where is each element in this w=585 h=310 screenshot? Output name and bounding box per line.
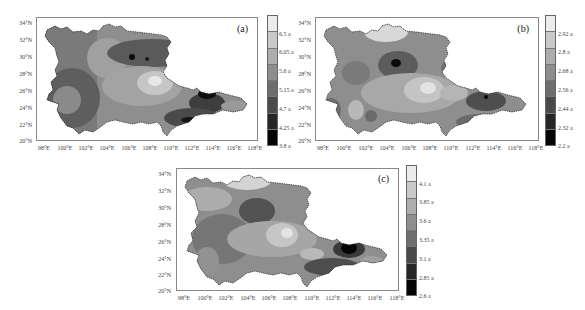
y-tick-label: 26°N	[145, 239, 171, 245]
colorbar-segment	[407, 280, 416, 295]
y-tick-label: 32°N	[6, 37, 32, 43]
colorbar-tick-label: 2.32 a	[558, 125, 573, 131]
colorbar-segment	[407, 247, 416, 263]
y-tick-label: 28°N	[285, 71, 311, 77]
y-tick-label: 32°N	[285, 37, 311, 43]
colorbar-a	[267, 15, 278, 146]
colorbar-segment	[407, 231, 416, 247]
colorbar-segment	[268, 130, 277, 145]
colorbar-segment	[546, 49, 555, 65]
colorbar-tick-label: 2.92 a	[558, 31, 573, 37]
y-tick-label: 28°N	[6, 71, 32, 77]
y-tick-label: 30°N	[6, 54, 32, 60]
colorbar-tick-label: 2.2 a	[558, 143, 570, 149]
heatmap-a	[37, 18, 259, 142]
colorbar-segment	[407, 215, 416, 231]
colorbar-segment	[268, 16, 277, 32]
colorbar-tick-label: 2.8 a	[558, 49, 570, 55]
colorbar-segment	[268, 65, 277, 81]
y-tick-label: 34°N	[285, 20, 311, 26]
y-tick-label: 30°N	[145, 205, 171, 211]
heatmap-c	[177, 169, 400, 292]
colorbar-tick-label: 2.6 a	[419, 293, 431, 299]
colorbar-tick-label: 3.85 a	[419, 199, 434, 205]
colorbar-segment	[546, 32, 555, 48]
colorbar-segment	[268, 81, 277, 97]
colorbar-tick-label: 3.6 a	[419, 218, 431, 224]
colorbar-tick-label: 2.68 a	[558, 68, 573, 74]
colorbar-tick-label: 2.56 a	[558, 87, 573, 93]
x-tick-label: 118°E	[241, 145, 269, 151]
colorbar-tick-label: 4.1 a	[419, 181, 431, 187]
y-tick-label: 20°N	[6, 138, 32, 144]
colorbar-segment	[546, 97, 555, 113]
colorbar-b	[545, 15, 556, 146]
y-tick-label: 34°N	[145, 171, 171, 177]
colorbar-tick-label: 3.1 a	[419, 256, 431, 262]
y-tick-label: 24°N	[6, 105, 32, 111]
colorbar-segment	[546, 65, 555, 81]
colorbar-segment	[268, 97, 277, 113]
y-tick-label: 22°N	[285, 122, 311, 128]
colorbar-c	[406, 165, 417, 296]
y-tick-label: 26°N	[6, 88, 32, 94]
colorbar-segment	[407, 182, 416, 198]
panel-label-b: (b)	[517, 23, 529, 34]
heatmap-b	[316, 18, 540, 142]
colorbar-segment	[268, 114, 277, 130]
colorbar-segment	[268, 32, 277, 48]
y-tick-label: 22°N	[6, 122, 32, 128]
y-tick-label: 32°N	[145, 188, 171, 194]
y-tick-label: 28°N	[145, 222, 171, 228]
y-tick-label: 20°N	[145, 288, 171, 294]
colorbar-tick-label: 2.44 a	[558, 106, 573, 112]
panel-label-c: (c)	[378, 173, 389, 184]
colorbar-segment	[268, 49, 277, 65]
y-tick-label: 24°N	[145, 256, 171, 262]
panel-label-a: (a)	[237, 23, 248, 34]
colorbar-segment	[407, 199, 416, 215]
colorbar-segment	[546, 130, 555, 145]
y-tick-label: 24°N	[285, 105, 311, 111]
y-tick-label: 26°N	[285, 88, 311, 94]
colorbar-segment	[546, 114, 555, 130]
colorbar-segment	[546, 81, 555, 97]
y-tick-label: 20°N	[285, 138, 311, 144]
colorbar-segment	[407, 166, 416, 182]
colorbar-tick-label: 3.35 a	[419, 237, 434, 243]
y-tick-label: 34°N	[6, 20, 32, 26]
y-tick-label: 30°N	[285, 54, 311, 60]
map-frame-c: (c)	[176, 168, 399, 291]
colorbar-tick-label: 2.85 a	[419, 275, 434, 281]
map-frame-a: (a)	[36, 17, 258, 141]
map-frame-b: (b)	[315, 17, 539, 141]
y-tick-label: 22°N	[145, 272, 171, 278]
colorbar-segment	[546, 16, 555, 32]
colorbar-segment	[407, 264, 416, 280]
